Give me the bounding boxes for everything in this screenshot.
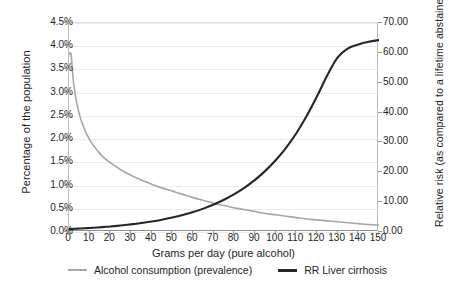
x-axis-tick-mark [130,231,131,235]
y-axis-tick-mark-left [64,138,68,139]
x-axis-tick-mark [171,231,172,235]
x-axis-tick-mark [295,231,296,235]
y-axis-tick-mark-left [64,185,68,186]
y-axis-tick-label-right: 70.00 [383,17,433,27]
x-axis-tick-mark [316,231,317,235]
x-axis-tick-mark [254,231,255,235]
y-axis-tick-label-right: 10.00 [383,196,433,206]
series-lines [69,23,379,232]
y-axis-tick-mark-left [64,115,68,116]
y-axis-tick-mark-right [378,141,382,142]
line-rr-liver-cirrhosis [69,40,379,229]
x-axis-tick-mark [275,231,276,235]
legend-label: Alcohol consumption (prevalence) [94,264,252,276]
legend-label: RR Liver cirrhosis [304,264,387,276]
x-axis-tick-mark [109,231,110,235]
y-axis-tick-mark-left [64,208,68,209]
chart-legend: Alcohol consumption (prevalence)RR Liver… [0,264,455,276]
x-axis-tick-mark [233,231,234,235]
x-axis-tick-mark [357,231,358,235]
y-axis-tick-mark-right [378,201,382,202]
y-axis-tick-mark-right [378,22,382,23]
x-axis-tick-mark [337,231,338,235]
y-axis-tick-mark-left [64,92,68,93]
legend-swatch-icon [68,269,87,271]
y-axis-tick-label-right: 60.00 [383,47,433,57]
x-axis-tick-mark [89,231,90,235]
y-axis-tick-label-right: 30.00 [383,136,433,146]
y-axis-tick-mark-right [378,112,382,113]
y-axis-tick-label-right: 20.00 [383,166,433,176]
x-axis-tick-mark [68,231,69,235]
y-axis-tick-mark-left [64,45,68,46]
y-axis-tick-mark-left [64,22,68,23]
y-axis-tick-mark-right [378,52,382,53]
x-axis-tick-mark [151,231,152,235]
y-axis-tick-label-right: 40.00 [383,107,433,117]
y-axis-tick-mark-right [378,171,382,172]
y-axis-tick-mark-left [64,68,68,69]
plot-area [68,22,378,231]
y-axis-tick-mark-left [64,161,68,162]
x-axis-tick-mark [378,231,379,235]
legend-item[interactable]: Alcohol consumption (prevalence) [68,264,252,276]
y-axis-tick-mark-right [378,82,382,83]
y-axis-title-right: Relative risk (as compared to a lifetime… [433,17,445,227]
y-axis-tick-label-right: 50.00 [383,77,433,87]
x-axis-tick-mark [213,231,214,235]
x-axis-tick-mark [192,231,193,235]
legend-swatch-icon [278,269,297,272]
x-axis-title: Grams per day (pure alcohol) [68,247,379,259]
legend-item[interactable]: RR Liver cirrhosis [278,264,387,276]
chart-container: Percentage of the population Relative ri… [0,0,455,290]
